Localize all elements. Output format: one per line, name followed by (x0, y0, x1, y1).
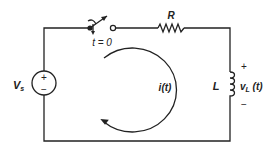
inductor-plus-sign: + (241, 61, 247, 72)
inductor-coil-icon (230, 72, 235, 98)
source-label: Vs (13, 79, 24, 92)
switch-action-arc-icon (88, 20, 96, 24)
current-arrowhead-icon (100, 117, 110, 126)
current-label: i(t) (159, 82, 172, 93)
switch-contact-icon (110, 25, 115, 30)
inductor-voltage-arg: (t) (250, 81, 263, 92)
resistor-label: R (167, 10, 175, 21)
wire-top-right (184, 28, 230, 72)
inductor-minus-sign: − (241, 99, 247, 110)
resistor-zigzag-icon (158, 24, 184, 32)
inductor-voltage-label: vL (t) (240, 81, 263, 93)
voltage-source: + − Vs (13, 71, 56, 95)
wire-bottom (44, 95, 230, 141)
wires (44, 28, 230, 141)
inductor: L + vL (t) − (213, 61, 264, 110)
inductor-label: L (213, 80, 220, 92)
switch: t = 0 (87, 16, 115, 48)
source-minus-sign: − (41, 84, 47, 95)
current-loop: i(t) (100, 48, 176, 132)
resistor: R (158, 10, 184, 32)
source-plus-sign: + (41, 72, 47, 83)
wire-top-left (44, 28, 90, 71)
switch-time-label: t = 0 (92, 37, 112, 48)
rl-circuit-diagram: + − Vs t = 0 R L + vL (t) − i(t) (0, 0, 275, 152)
source-label-sub: s (20, 85, 24, 92)
switch-action-arrowhead-icon (91, 31, 95, 35)
